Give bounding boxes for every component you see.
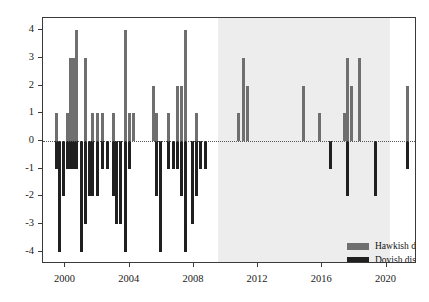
- bar-hawkish: [246, 86, 249, 141]
- bar-dovish: [346, 141, 349, 196]
- y-tick-label: -4: [14, 246, 34, 257]
- bar-hawkish: [180, 86, 183, 141]
- bar-dovish: [101, 141, 104, 169]
- bar-dovish: [204, 141, 207, 169]
- bar-hawkish: [358, 58, 361, 141]
- x-tick-label: 2012: [237, 274, 277, 285]
- legend-swatch-dovish-icon: [347, 257, 369, 263]
- bar-hawkish: [242, 58, 245, 141]
- y-tick-label: -2: [14, 190, 34, 201]
- bar-dovish: [128, 141, 131, 169]
- bar-hawkish: [128, 113, 131, 141]
- bar-dovish: [406, 141, 409, 169]
- bar-hawkish: [195, 113, 198, 141]
- bar-dovish: [167, 141, 170, 169]
- y-tick-label: 1: [14, 107, 34, 118]
- bar-hawkish: [75, 30, 78, 141]
- x-tick-label: 2016: [301, 274, 341, 285]
- y-tick-label: 3: [14, 52, 34, 63]
- bar-dovish: [191, 141, 194, 224]
- x-tick-mark: [193, 263, 194, 267]
- bar-hawkish: [167, 113, 170, 141]
- legend-item-hawkish: Hawkish dissent: [347, 242, 416, 252]
- plot-area: Hawkish dissent Dovish dissent: [42, 17, 416, 263]
- bar-hawkish: [124, 30, 127, 141]
- bar-dovish: [199, 141, 202, 169]
- bar-hawkish: [91, 113, 94, 141]
- dissent-bar-chart-figure: 43210-1-2-3-4 200020042008201220162020 H…: [0, 0, 429, 302]
- bar-dovish: [91, 141, 94, 196]
- bar-dovish: [62, 141, 65, 196]
- bar-hawkish: [132, 113, 135, 141]
- bar-hawkish: [55, 113, 58, 141]
- bar-dovish: [329, 141, 332, 169]
- y-tick-label: 0: [14, 135, 34, 146]
- bar-hawkish: [176, 86, 179, 141]
- bar-dovish: [184, 141, 187, 252]
- bar-hawkish: [112, 113, 115, 141]
- y-tick-label: -3: [14, 218, 34, 229]
- x-tick-mark: [64, 263, 65, 267]
- bar-dovish: [75, 141, 78, 169]
- bar-dovish: [180, 141, 183, 196]
- x-tick-label: 2008: [173, 274, 213, 285]
- y-tick-label: 4: [14, 24, 34, 35]
- bar-dovish: [84, 141, 87, 224]
- bar-hawkish: [101, 113, 104, 141]
- bar-hawkish: [237, 113, 240, 141]
- bar-hawkish: [406, 86, 409, 141]
- legend-label-dovish: Dovish dissent: [375, 256, 416, 264]
- bar-hawkish: [84, 58, 87, 141]
- bar-dovish: [80, 141, 83, 252]
- bar-dovish: [172, 141, 175, 169]
- bar-dovish: [124, 141, 127, 252]
- bar-dovish: [195, 141, 198, 196]
- zero-baseline: [43, 141, 415, 142]
- bar-hawkish: [155, 113, 158, 141]
- legend-item-dovish: Dovish dissent: [347, 256, 416, 264]
- bar-hawkish: [184, 30, 187, 141]
- legend: Hawkish dissent Dovish dissent: [343, 239, 416, 263]
- bar-dovish: [374, 141, 377, 196]
- bar-hawkish: [96, 113, 99, 141]
- y-tick-label: -1: [14, 163, 34, 174]
- bar-dovish: [176, 141, 179, 169]
- bar-dovish: [106, 141, 109, 169]
- bar-hawkish: [302, 86, 305, 141]
- x-tick-mark: [129, 263, 130, 267]
- bar-dovish: [115, 141, 118, 224]
- bar-dovish: [119, 141, 122, 224]
- x-tick-label: 2004: [109, 274, 149, 285]
- legend-label-hawkish: Hawkish dissent: [375, 242, 416, 252]
- bar-dovish: [159, 141, 162, 252]
- x-tick-mark: [321, 263, 322, 267]
- x-tick-mark: [386, 263, 387, 267]
- x-tick-mark: [257, 263, 258, 267]
- x-tick-label: 2020: [366, 274, 406, 285]
- bar-hawkish: [350, 86, 353, 141]
- bar-hawkish: [318, 113, 321, 141]
- y-tick-label: 2: [14, 80, 34, 91]
- legend-swatch-hawkish-icon: [347, 243, 369, 250]
- bar-dovish: [96, 141, 99, 196]
- x-tick-label: 2000: [44, 274, 84, 285]
